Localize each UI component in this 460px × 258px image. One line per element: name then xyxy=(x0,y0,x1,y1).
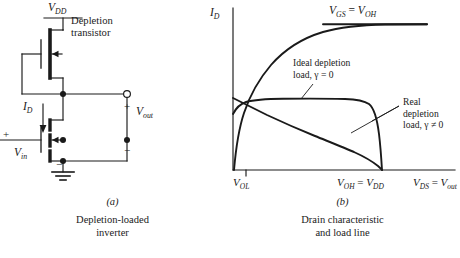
output-node-dot xyxy=(60,91,66,97)
input-voltage-symbol: V xyxy=(14,146,21,158)
y-axis-label: ID xyxy=(210,6,220,21)
vgs-subscript: GS xyxy=(336,10,346,19)
panel-b-chart: ID VGS = VOH Ideal depletion load, γ = 0… xyxy=(205,0,460,258)
voh-subscript: OH xyxy=(365,10,376,19)
output-voltage-subscript: out xyxy=(143,111,153,120)
output-voltage-label: Vout xyxy=(136,105,153,121)
voh-tick-symbol: V xyxy=(337,176,344,188)
vgs-equals-sign: = xyxy=(346,4,358,16)
x-tick-label-vol: VOL xyxy=(233,176,249,191)
drain-current-subscript: D xyxy=(27,106,33,115)
depletion-transistor-label-line2: transistor xyxy=(71,27,113,39)
drain-current-label: ID xyxy=(23,100,33,116)
annotation-ideal-line2: load, γ = 0 xyxy=(293,69,350,81)
voh-tick-subscript: OH xyxy=(344,182,355,191)
annotation-ideal-line1: Ideal depletion xyxy=(293,57,350,69)
output-return-node-dot xyxy=(124,137,130,143)
vds-equals-sign: = xyxy=(429,176,441,188)
y-axis-subscript: D xyxy=(214,12,220,21)
x-axis-label: VDS = Vout xyxy=(413,176,457,191)
vds-subscript: DS xyxy=(420,182,429,191)
vout-axis-subscript: out xyxy=(447,182,457,191)
panel-b-caption-line1: Drain characteristic xyxy=(225,213,460,226)
annotation-ideal-depletion-load: Ideal depletion load, γ = 0 xyxy=(293,57,350,80)
output-polarity-minus: − xyxy=(124,144,130,156)
x-tick-label-voh-vdd: VOH = VDD xyxy=(337,176,384,191)
panel-b-index: (b) xyxy=(225,196,460,207)
depletion-transistor-label: Depletion transistor xyxy=(71,15,113,39)
depletion-transistor-label-line1: Depletion xyxy=(71,15,113,27)
supply-voltage-symbol: V xyxy=(48,1,55,13)
panel-b-caption: Drain characteristic and load line xyxy=(225,213,460,239)
load-substrate-arrow xyxy=(52,51,59,57)
input-voltage-subscript: in xyxy=(21,152,27,161)
annotation-real-line2: depletion xyxy=(403,108,443,120)
curve-real-depletion-load xyxy=(233,98,382,170)
output-terminal-open-circle[interactable] xyxy=(124,91,131,98)
driver-substrate-arrow xyxy=(52,137,59,143)
leader-line-real-load-lower xyxy=(351,106,399,133)
driver-substrate-node-dot xyxy=(60,137,66,143)
panel-a-caption-line1: Depletion-loaded xyxy=(0,213,225,226)
figure-container: VDD Depletion transistor ID Vout Vin + −… xyxy=(0,0,460,258)
vdd-tick-symbol: V xyxy=(366,176,373,188)
curve-vgs-voh xyxy=(234,24,427,170)
voh-symbol: V xyxy=(358,4,365,16)
vdd-tick-subscript: DD xyxy=(373,182,384,191)
output-voltage-symbol: V xyxy=(136,105,143,117)
curve-label-vgs-voh: VGS = VOH xyxy=(329,4,376,19)
input-polarity-minus: − xyxy=(56,158,62,170)
vds-symbol: V xyxy=(413,176,420,188)
annotation-real-line1: Real xyxy=(403,96,443,108)
input-polarity-plus: + xyxy=(3,128,9,140)
voh-tick-equals-sign: = xyxy=(355,176,367,188)
output-polarity-plus: + xyxy=(124,100,130,112)
panel-a-index: (a) xyxy=(0,196,225,207)
panel-a-circuit: VDD Depletion transistor ID Vout Vin + −… xyxy=(0,0,225,258)
annotation-real-line3: load, γ ≠ 0 xyxy=(403,119,443,131)
leader-line-ideal-load xyxy=(301,84,313,99)
vol-symbol: V xyxy=(233,176,240,188)
panel-a-caption-line2: inverter xyxy=(0,226,225,239)
supply-voltage-subscript: DD xyxy=(55,7,66,16)
vol-subscript: OL xyxy=(240,182,250,191)
annotation-real-depletion-load: Real depletion load, γ ≠ 0 xyxy=(403,96,443,131)
panel-a-caption: Depletion-loaded inverter xyxy=(0,213,225,239)
vgs-symbol: V xyxy=(329,4,336,16)
input-voltage-label: Vin xyxy=(14,146,27,162)
panel-b-caption-line2: and load line xyxy=(225,226,460,239)
supply-voltage-label: VDD xyxy=(48,1,66,17)
